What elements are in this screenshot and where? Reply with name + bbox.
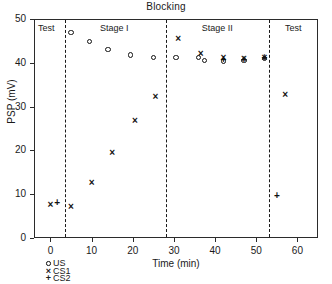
x-tick-mark [174, 238, 175, 242]
x-tick-label: 30 [161, 245, 187, 256]
y-tick-label: 0 [0, 232, 26, 243]
data-point-cs1: × [88, 180, 96, 186]
data-point-us [105, 47, 110, 52]
data-point-cs1: × [174, 36, 182, 42]
x-axis-label: Time (min) [34, 258, 318, 269]
data-point-cs1: × [131, 118, 139, 124]
phase-label-3: Test [263, 23, 323, 33]
y-tick-label: 40 [0, 57, 26, 68]
phase-divider [65, 20, 66, 237]
x-tick-label: 50 [243, 245, 269, 256]
y-tick-label: 30 [0, 101, 26, 112]
x-tick-mark [133, 238, 134, 242]
data-point-cs2: + [240, 57, 248, 63]
y-tick-label: 10 [0, 188, 26, 199]
data-point-cs2: + [273, 193, 281, 199]
y-tick-mark [30, 150, 34, 151]
data-point-us [173, 55, 178, 60]
y-tick-mark [30, 19, 34, 20]
legend: US×CS1+CS2 [44, 260, 71, 283]
y-tick-mark [30, 194, 34, 195]
data-point-cs1: × [108, 150, 116, 156]
data-point-cs1: × [281, 92, 289, 98]
x-tick-mark [50, 238, 51, 242]
x-tick-label: 10 [79, 245, 105, 256]
x-tick-label: 20 [120, 245, 146, 256]
x-tick-mark [92, 238, 93, 242]
x-tick-mark [297, 238, 298, 242]
plot-frame [34, 19, 318, 238]
data-point-us [128, 52, 133, 57]
data-point-cs2: + [260, 55, 268, 61]
y-tick-mark [30, 238, 34, 239]
y-tick-mark [30, 63, 34, 64]
legend-item-cs2: +CS2 [44, 275, 71, 283]
y-tick-mark [30, 107, 34, 108]
x-tick-label: 0 [37, 245, 63, 256]
data-point-cs2: + [219, 57, 227, 63]
data-point-cs1: × [67, 204, 75, 210]
x-tick-label: 40 [202, 245, 228, 256]
data-point-cs1: × [197, 51, 205, 57]
y-tick-label: 20 [0, 144, 26, 155]
x-tick-mark [256, 238, 257, 242]
phase-label-1: Stage I [84, 23, 144, 33]
phase-divider [166, 20, 167, 237]
x-tick-label: 60 [284, 245, 310, 256]
data-point-cs2: + [53, 200, 61, 206]
figure: Blocking PSP (mV) Time (min) 01020304050… [0, 0, 332, 284]
data-point-us [68, 30, 73, 35]
data-point-cs1: × [151, 94, 159, 100]
chart-title: Blocking [0, 1, 332, 12]
phase-label-2: Stage II [187, 23, 247, 33]
phase-label-0: Test [16, 23, 76, 33]
data-point-us [151, 55, 156, 60]
legend-marker-plus-icon: + [44, 275, 53, 283]
phase-divider [269, 20, 270, 237]
x-tick-mark [215, 238, 216, 242]
legend-label: CS2 [53, 275, 71, 283]
